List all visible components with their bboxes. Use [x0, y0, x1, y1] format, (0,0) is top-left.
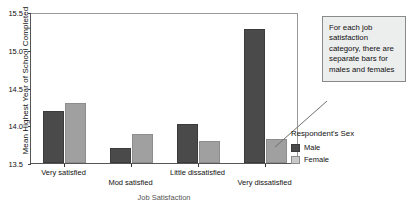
legend-swatch-male-icon [291, 144, 300, 152]
y-axis-tick-label: 15.5 [8, 9, 23, 18]
y-axis-tick-mark [28, 89, 31, 90]
y-axis-tick-mark [28, 13, 31, 14]
bar-female-very-satisfied[interactable] [65, 103, 86, 163]
bar-female-little-dissatisfied[interactable] [199, 141, 220, 163]
x-axis-tick-mark [131, 164, 132, 167]
y-axis-tick-mark [28, 164, 31, 165]
bar-female-mod-satisfied[interactable] [132, 134, 153, 163]
legend-item-male[interactable]: Male [291, 143, 411, 152]
x-axis-tick-label: Very satisfied [41, 168, 86, 177]
bar-male-mod-satisfied[interactable] [110, 148, 131, 163]
x-axis-title: Job Satisfaction [138, 193, 191, 200]
x-axis-tick-mark [64, 164, 65, 167]
x-axis-tick-mark [265, 164, 266, 167]
bar-male-very-dissatisfied[interactable] [244, 29, 265, 163]
x-axis-tick-label: Very dissatisfied [237, 178, 291, 187]
legend-swatch-female-icon [291, 156, 300, 164]
chart-canvas: Mean Highest Year of School Completed 13… [0, 0, 414, 200]
x-axis-tick-label: Little dissatisfied [170, 168, 225, 177]
x-axis-tick-mark [198, 164, 199, 167]
y-axis-tick-mark [28, 126, 31, 127]
legend-label-male: Male [304, 143, 320, 152]
y-axis-tick-label: 15.0 [8, 46, 23, 55]
y-axis-tick-label: 14.5 [8, 84, 23, 93]
legend-item-female[interactable]: Female [291, 155, 411, 164]
y-axis-tick-label: 13.5 [8, 160, 23, 169]
callout-annotation: For each job satisfaction category, ther… [322, 16, 406, 82]
x-axis-tick-label: Mod satisfied [108, 178, 152, 187]
legend: Respondent's Sex Male Female [291, 129, 411, 167]
bar-female-very-dissatisfied[interactable] [266, 139, 287, 163]
bar-male-little-dissatisfied[interactable] [177, 124, 198, 163]
y-axis-tick-label: 14.0 [8, 122, 23, 131]
bar-male-very-satisfied[interactable] [43, 111, 64, 163]
bar-group-container [31, 14, 297, 163]
plot-area [30, 13, 298, 164]
legend-title: Respondent's Sex [291, 129, 411, 138]
y-axis-tick-mark [28, 51, 31, 52]
legend-label-female: Female [304, 155, 329, 164]
y-axis-labels: 13.514.014.515.015.5 [0, 13, 28, 164]
